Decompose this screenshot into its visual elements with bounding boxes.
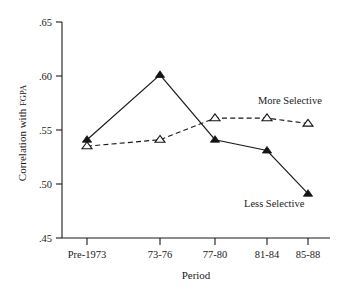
y-tick-label: .55 — [39, 125, 52, 136]
x-axis-title: Period — [182, 269, 211, 281]
y-tick-label: .60 — [39, 71, 52, 82]
series-layer — [82, 71, 313, 196]
y-axis-title-main: Correlation with — [16, 106, 28, 181]
y-tick-label: .45 — [39, 233, 52, 244]
data-point-marker-open — [262, 114, 272, 121]
x-tick-label: Pre-1973 — [68, 249, 107, 260]
y-axis-title-smallcaps: FGPA — [18, 84, 28, 106]
data-point-marker-open — [210, 114, 220, 121]
x-tick-label: 85-88 — [296, 249, 321, 260]
y-axis-title: Correlation with FGPA — [16, 84, 28, 181]
data-point-marker-filled — [155, 71, 164, 78]
series-annotation-less-selective: Less Selective — [244, 198, 305, 209]
series-line — [87, 75, 308, 194]
chart-figure: Correlation with FGPA .65 .60 .55 .50 .4… — [0, 0, 342, 293]
x-tick-label: 77-80 — [203, 249, 228, 260]
x-axis-tick-labels: Pre-1973 73-76 77-80 81-84 85-88 — [68, 249, 321, 260]
y-axis-ticks — [56, 22, 62, 238]
y-tick-label: .50 — [39, 179, 52, 190]
y-tick-label: .65 — [39, 17, 52, 28]
x-axis-ticks — [87, 238, 308, 245]
x-tick-label: 73-76 — [148, 249, 173, 260]
y-axis-tick-labels: .65 .60 .55 .50 .45 — [39, 17, 52, 244]
series-annotation-more-selective: More Selective — [258, 95, 322, 106]
line-chart: Correlation with FGPA .65 .60 .55 .50 .4… — [0, 0, 342, 293]
series-line — [87, 118, 308, 146]
x-tick-label: 81-84 — [255, 249, 280, 260]
